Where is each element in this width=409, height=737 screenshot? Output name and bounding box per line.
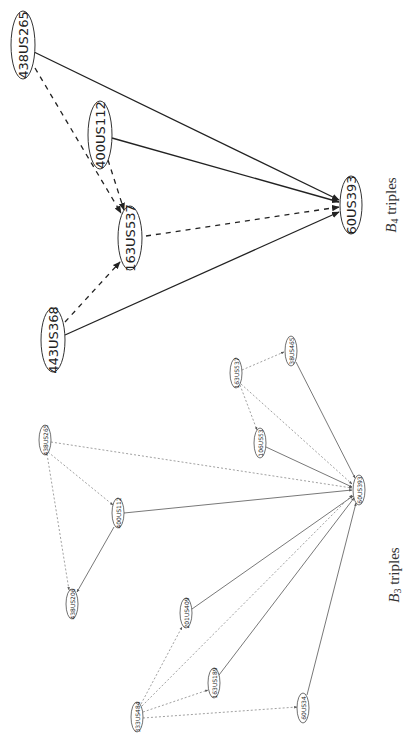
node-label: 163US189	[211, 667, 218, 698]
b3-edge-solid	[266, 447, 352, 487]
b4-edges	[34, 52, 339, 335]
b4-edge-dashed	[146, 207, 339, 236]
b4-caption-text: B4 triples	[383, 177, 400, 233]
node-60US393: 60US393	[353, 475, 365, 505]
b3-edge-solid	[192, 496, 353, 609]
b3-caption: B3 triples	[386, 547, 403, 603]
b3-edge-solid	[77, 527, 114, 592]
node-label: 333US484	[134, 701, 141, 732]
node-333US484: 333US484	[131, 701, 143, 732]
node-label: 438US265	[16, 11, 31, 78]
b3-edge-solid	[219, 498, 354, 675]
node-163US537: 163US537	[230, 357, 242, 388]
node-label: 400US112	[93, 101, 108, 168]
node-443US368: 443US368	[41, 306, 65, 373]
b3-edge-dotted	[48, 452, 113, 505]
node-438US206: 438US206	[66, 588, 78, 619]
b3-edges	[47, 352, 356, 718]
b3-edge-dotted	[141, 627, 182, 704]
node-438US265: 438US265	[11, 11, 35, 79]
b3-edge-dotted	[143, 707, 297, 718]
b4-edge-solid	[65, 212, 339, 335]
node-163US189: 163US189	[208, 667, 220, 698]
node-label: 400US112	[115, 497, 122, 528]
node-label: 60US393	[356, 476, 363, 503]
b4-edge-dashed	[108, 160, 124, 210]
b3-edge-dotted	[143, 690, 208, 712]
b3-caption-text: B3 triples	[386, 547, 403, 603]
node-label: 438US265	[42, 424, 49, 455]
b4-nodes: 438US265400US112163US537443US36860US393	[11, 11, 362, 374]
b4-edge-solid	[112, 138, 339, 202]
b4-edge-dashed	[65, 262, 120, 322]
node-label: 38US465	[288, 337, 295, 364]
node-60US393: 60US393	[340, 175, 362, 234]
b3-nodes: 438US265400US112438US206163US53738US4651…	[39, 336, 365, 733]
node-label: 438US206	[69, 588, 76, 619]
b3-edge-dotted	[51, 442, 352, 488]
b3-edge-solid	[124, 490, 352, 513]
node-438US265: 438US265	[39, 424, 51, 455]
node-label: 163US537	[233, 357, 240, 388]
b4-edge-solid	[34, 52, 339, 200]
b3-edge-dotted	[47, 454, 69, 590]
node-400US112: 400US112	[112, 497, 124, 528]
node-163US537: 163US537	[118, 204, 142, 271]
b3-edge-solid	[307, 503, 356, 695]
b3-edge-dotted	[240, 385, 257, 430]
b3-edge-dotted	[242, 352, 284, 370]
node-label: 443US368	[46, 306, 61, 373]
node-label: 163US537	[123, 204, 138, 271]
node-label: 60US34	[300, 696, 307, 720]
node-38US465: 38US465	[285, 336, 297, 366]
triples-diagram: 438US265400US112163US537443US36860US393 …	[0, 0, 409, 737]
node-201US409: 201US409	[180, 597, 192, 628]
b4-caption: B4 triples	[383, 177, 400, 233]
node-60US34: 60US34	[297, 693, 309, 723]
node-label: 106US53	[257, 429, 264, 456]
node-label: 201US409	[183, 597, 190, 628]
node-106US53: 106US53	[254, 428, 266, 458]
node-label: 60US393	[344, 175, 359, 234]
b3-edge-dotted	[142, 495, 352, 706]
b3-edge-solid	[296, 362, 355, 478]
node-400US112: 400US112	[88, 101, 112, 169]
